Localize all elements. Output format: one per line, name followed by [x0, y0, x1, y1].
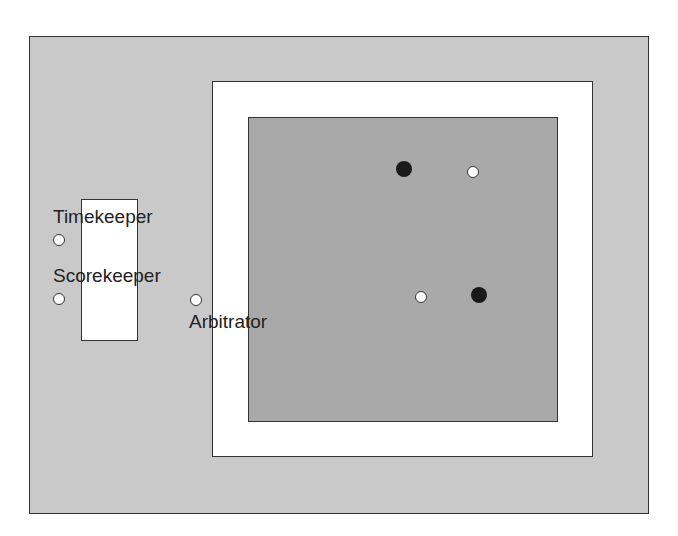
- competitor-marker-2: [471, 287, 487, 303]
- timekeeper-label: Timekeeper: [53, 207, 153, 227]
- judge-marker: [415, 291, 427, 303]
- scorekeeper-marker: [53, 293, 65, 305]
- arbitrator-label: Arbitrator: [189, 312, 267, 332]
- timekeeper-marker: [53, 234, 65, 246]
- scorekeeper-label: Scorekeeper: [53, 266, 161, 286]
- competitor-marker-1: [396, 161, 412, 177]
- arbitrator-marker: [190, 294, 202, 306]
- referee-marker: [467, 166, 479, 178]
